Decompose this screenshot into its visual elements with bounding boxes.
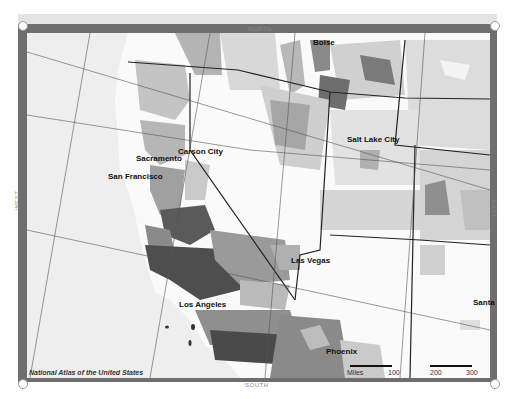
- pan-northeast-button[interactable]: [490, 21, 500, 31]
- map-credit: National Atlas of the United States: [29, 369, 143, 376]
- scale-tick-200: 200: [430, 369, 442, 376]
- compass-east-label: EAST: [491, 200, 497, 218]
- pan-southeast-button[interactable]: [490, 379, 500, 389]
- city-label-san-francisco[interactable]: San Francisco: [108, 172, 163, 181]
- pan-northwest-button[interactable]: [18, 21, 28, 31]
- city-label-sacramento[interactable]: Sacramento: [136, 154, 182, 163]
- city-label-santa-fe[interactable]: Santa: [473, 298, 495, 307]
- compass-west-label: WEST: [14, 191, 20, 210]
- city-label-phoenix[interactable]: Phoenix: [326, 347, 357, 356]
- scale-tick-100: 100: [388, 369, 400, 376]
- city-label-boise[interactable]: Boise: [313, 38, 335, 47]
- city-label-carson-city[interactable]: Carson City: [178, 147, 223, 156]
- compass-south-label: SOUTH: [245, 382, 269, 388]
- choropleth-layer: [27, 33, 490, 378]
- scale-tick-300: 300: [466, 369, 478, 376]
- pan-southwest-button[interactable]: [18, 379, 28, 389]
- city-label-salt-lake-city[interactable]: Salt Lake City: [347, 135, 399, 144]
- map-canvas[interactable]: [27, 33, 490, 378]
- city-label-los-angeles[interactable]: Los Angeles: [179, 300, 226, 309]
- compass-north-label: NORTH: [248, 26, 272, 32]
- city-label-las-vegas[interactable]: Las Vegas: [291, 256, 330, 265]
- scale-unit-label: Miles: [347, 369, 363, 376]
- map-toolbar-strip: [18, 14, 497, 24]
